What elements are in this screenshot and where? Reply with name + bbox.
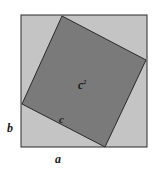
hypotenuse-label: c xyxy=(59,113,64,125)
side-a-label: a xyxy=(55,152,61,166)
pythagorean-diagram: c2 c b a xyxy=(0,0,159,173)
side-b-label: b xyxy=(7,121,13,135)
